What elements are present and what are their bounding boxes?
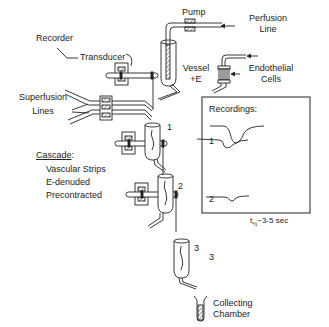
- perfusion-tube-outer: [166, 23, 222, 45]
- vessel-plus-e: [158, 40, 180, 100]
- collecting-chamber-label: Collecting Chamber: [213, 298, 253, 320]
- transducer-top: [106, 63, 158, 85]
- recordings-title: Recordings:: [209, 104, 257, 115]
- recorder-label: Recorder: [36, 33, 73, 44]
- perfusion-line-label: Perfusion Line: [240, 13, 296, 35]
- cascade-title: Cascade:: [36, 150, 74, 161]
- cascade-item-precontracted: Precontracted: [46, 190, 102, 201]
- cascade-item-vascular-strips: Vascular Strips: [46, 164, 106, 175]
- collecting-chamber: [194, 296, 207, 321]
- cascade-diagram: Recorder Transducer Pump Perfusion Line …: [0, 0, 329, 327]
- trace-1: [210, 126, 264, 143]
- half-life-label: t½~3-5 sec: [250, 215, 288, 230]
- stage-3-number: 3: [194, 243, 199, 254]
- pump-label: Pump: [182, 7, 206, 18]
- trace-3-label: 3: [209, 252, 214, 263]
- trace-2-label: 2: [209, 194, 214, 205]
- cascade-stage-2: [126, 174, 178, 232]
- recorder-leader-line: [57, 48, 78, 58]
- vessel-label: Vessel +E: [180, 63, 212, 85]
- transducer-label: Transducer: [80, 52, 125, 63]
- endothelial-cells-label: Endothelial Cells: [240, 63, 302, 85]
- cascade-item-e-denuded: E-denuded: [46, 177, 90, 188]
- stage-1-number: 1: [167, 122, 172, 133]
- stage-2-number: 2: [178, 181, 183, 192]
- superfusion-lines-label: Superfusion Lines: [15, 92, 71, 117]
- superfusion-pointer-1: [72, 104, 88, 110]
- superfusion-lines: [65, 90, 153, 124]
- pump: [185, 19, 195, 31]
- perfusion-tube-inner: [170, 27, 222, 45]
- trace-1-label: 1: [209, 136, 214, 147]
- cascade-stage-1: [115, 123, 167, 175]
